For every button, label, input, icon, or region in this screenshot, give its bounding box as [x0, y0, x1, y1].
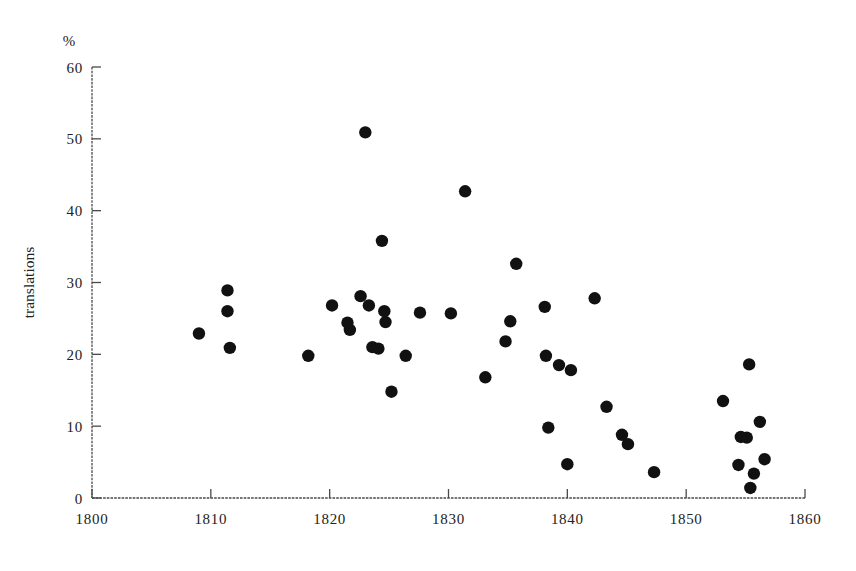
data-points: [193, 126, 771, 494]
scatter-plot-figure: 1800181018201830184018501860 01020304050…: [0, 0, 856, 571]
data-point: [363, 299, 375, 311]
data-point: [510, 258, 522, 270]
y-axis-title: translations: [20, 247, 37, 318]
data-point: [400, 350, 412, 362]
y-tick-label: 10: [67, 419, 83, 435]
data-point: [717, 395, 729, 407]
data-point: [553, 359, 565, 371]
x-tick-label: 1830: [432, 511, 465, 527]
data-point: [732, 459, 744, 471]
data-point: [372, 342, 384, 354]
data-point: [754, 416, 766, 428]
x-tick-label: 1820: [313, 511, 346, 527]
data-point: [758, 453, 770, 465]
y-tick-label: 40: [67, 203, 83, 219]
x-tick-label: 1810: [194, 511, 227, 527]
x-tick-label: 1850: [670, 511, 703, 527]
data-point: [378, 305, 390, 317]
data-point: [385, 385, 397, 397]
data-point: [354, 290, 366, 302]
y-axis-unit-label: %: [63, 33, 76, 49]
data-point: [326, 299, 338, 311]
data-point: [744, 482, 756, 494]
plot-canvas: 1800181018201830184018501860 01020304050…: [0, 0, 856, 571]
x-axis-tick-labels: 1800181018201830184018501860: [76, 511, 822, 527]
data-point: [459, 185, 471, 197]
data-point: [542, 421, 554, 433]
data-point: [344, 324, 356, 336]
data-point: [302, 350, 314, 362]
data-point: [622, 438, 634, 450]
data-point: [359, 126, 371, 138]
data-point: [588, 292, 600, 304]
axes: [92, 67, 805, 498]
data-point: [414, 306, 426, 318]
data-point: [376, 235, 388, 247]
data-point: [445, 307, 457, 319]
y-tick-label: 0: [75, 491, 83, 507]
y-tick-label: 50: [67, 131, 83, 147]
data-point: [504, 315, 516, 327]
x-tick-label: 1840: [551, 511, 584, 527]
y-tick-label: 20: [67, 347, 83, 363]
x-tick-label: 1860: [789, 511, 822, 527]
data-point: [539, 301, 551, 313]
data-point: [379, 316, 391, 328]
data-point: [193, 327, 205, 339]
data-point: [565, 364, 577, 376]
data-point: [561, 458, 573, 470]
data-point: [600, 401, 612, 413]
y-tick-label: 60: [67, 60, 83, 76]
data-point: [540, 350, 552, 362]
data-point: [648, 466, 660, 478]
data-point: [221, 305, 233, 317]
data-point: [741, 431, 753, 443]
y-axis-tick-labels: 0102030405060: [67, 60, 83, 507]
data-point: [479, 371, 491, 383]
data-point: [221, 284, 233, 296]
y-tick-label: 30: [67, 275, 83, 291]
data-point: [499, 335, 511, 347]
tick-marks: [92, 67, 805, 498]
data-point: [743, 358, 755, 370]
data-point: [224, 342, 236, 354]
data-point: [748, 467, 760, 479]
x-tick-label: 1800: [76, 511, 109, 527]
